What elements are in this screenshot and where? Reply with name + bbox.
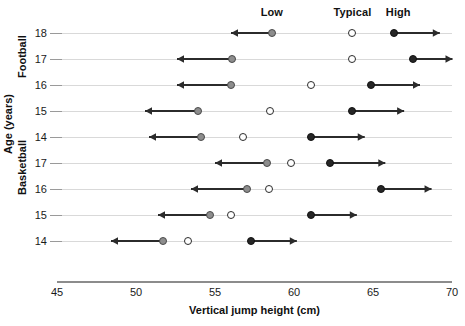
row-gridline <box>57 215 452 216</box>
x-tick-label: 65 <box>367 286 379 298</box>
marker-low-point <box>227 81 235 89</box>
row-tick <box>50 85 62 86</box>
row-tick <box>50 241 62 242</box>
y-axis-title: Age (years) <box>2 94 14 154</box>
row-tick <box>50 189 62 190</box>
marker-typical-point <box>348 29 356 37</box>
x-tick-label: 60 <box>288 286 300 298</box>
column-header-low: Low <box>261 6 283 18</box>
row-label-age: 14 <box>0 235 47 247</box>
marker-typical-point <box>266 107 274 115</box>
x-axis-line <box>57 281 452 283</box>
marker-high-point <box>307 133 315 141</box>
x-tick-label: 45 <box>51 286 63 298</box>
marker-low-point <box>268 29 276 37</box>
x-tick-label: 70 <box>446 286 458 298</box>
marker-low-point <box>159 237 167 245</box>
marker-typical-point <box>227 211 235 219</box>
x-tick-label: 50 <box>130 286 142 298</box>
marker-typical-point <box>184 237 192 245</box>
marker-high-point <box>409 55 417 63</box>
marker-high-point <box>307 211 315 219</box>
row-tick <box>50 163 62 164</box>
row-tick <box>50 59 62 60</box>
row-tick <box>50 137 62 138</box>
row-label-age: 16 <box>0 79 47 91</box>
marker-high-point <box>326 159 334 167</box>
marker-low-point <box>194 107 202 115</box>
row-tick <box>50 111 62 112</box>
marker-typical-point <box>348 55 356 63</box>
row-tick <box>50 33 62 34</box>
column-header-high: High <box>386 6 411 18</box>
marker-high-point <box>390 29 398 37</box>
marker-high-point <box>348 107 356 115</box>
marker-typical-point <box>307 81 315 89</box>
row-label-age: 15 <box>0 209 47 221</box>
group-label-football: Football <box>16 62 28 78</box>
marker-typical-point <box>265 185 273 193</box>
vertical-jump-height-chart: LowTypicalHigh181716151417161514Football… <box>0 0 465 326</box>
x-tick-label: 55 <box>209 286 221 298</box>
marker-low-point <box>228 55 236 63</box>
marker-low-point <box>243 185 251 193</box>
row-gridline <box>57 137 452 138</box>
marker-low-point <box>197 133 205 141</box>
row-gridline <box>57 59 452 60</box>
group-label-basketball: Basketball <box>16 179 28 195</box>
marker-high-point <box>247 237 255 245</box>
column-header-typical: Typical <box>334 6 372 18</box>
marker-typical-point <box>287 159 295 167</box>
marker-high-point <box>377 185 385 193</box>
marker-high-point <box>367 81 375 89</box>
marker-typical-point <box>239 133 247 141</box>
marker-low-point <box>263 159 271 167</box>
x-axis-title: Vertical jump height (cm) <box>189 304 320 316</box>
row-tick <box>50 215 62 216</box>
marker-low-point <box>206 211 214 219</box>
